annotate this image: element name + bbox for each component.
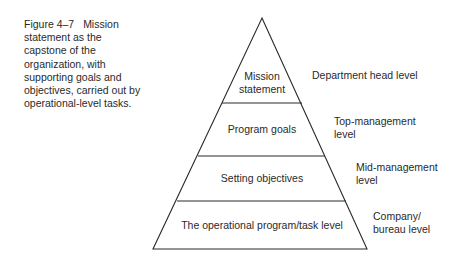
- level-top-management: Top-management level: [334, 115, 416, 141]
- level-label-line: Top-management: [334, 115, 416, 128]
- level-label-line: bureau level: [373, 223, 430, 236]
- tier-setting-objectives: Setting objectives: [192, 172, 332, 185]
- tier-label-line: Program goals: [202, 123, 322, 136]
- tier-program-goals: Program goals: [202, 123, 322, 136]
- level-label-line: level: [356, 174, 438, 187]
- tier-label-line: statement: [212, 83, 312, 96]
- level-label-line: Department head level: [312, 69, 418, 82]
- level-label-line: Mid-management: [356, 161, 438, 174]
- tier-label-line: Setting objectives: [192, 172, 332, 185]
- tier-mission-statement: Mission statement: [212, 70, 312, 96]
- level-mid-management: Mid-management level: [356, 161, 438, 187]
- level-label-line: Company/: [373, 210, 430, 223]
- level-department-head: Department head level: [312, 69, 418, 82]
- tier-operational-program: The operational program/task level: [167, 219, 357, 232]
- level-company-bureau: Company/ bureau level: [373, 210, 430, 236]
- level-label-line: level: [334, 128, 416, 141]
- tier-label-line: The operational program/task level: [167, 219, 357, 232]
- tier-label-line: Mission: [212, 70, 312, 83]
